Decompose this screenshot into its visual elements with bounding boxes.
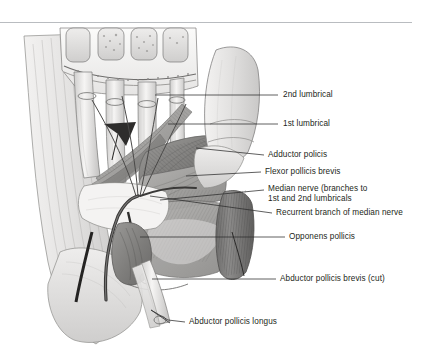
label-median-nerve: Median nerve (branches to 1st and 2nd lu… [268, 184, 367, 204]
label-flexor-pollicis-brevis: Flexor pollicis brevis [265, 167, 341, 177]
palmar-hand-illustration [0, 0, 430, 357]
label-adductor-policis: Adductor policis [268, 150, 327, 160]
label-opponens-pollicis: Opponens pollicis [289, 232, 355, 242]
label-recurrent-branch: Recurrent branch of median nerve [276, 208, 403, 218]
label-abductor-pollicis-brevis: Abductor pollicis brevis (cut) [280, 274, 385, 284]
thumb [194, 47, 259, 188]
label-abductor-pollicis-longus: Abductor pollicis longus [189, 317, 277, 327]
label-1st-lumbrical: 1st lumbrical [283, 119, 330, 129]
label-2nd-lumbrical: 2nd lumbrical [283, 90, 333, 100]
anatomy-figure: 2nd lumbrical 1st lumbrical Adductor pol… [0, 0, 430, 357]
